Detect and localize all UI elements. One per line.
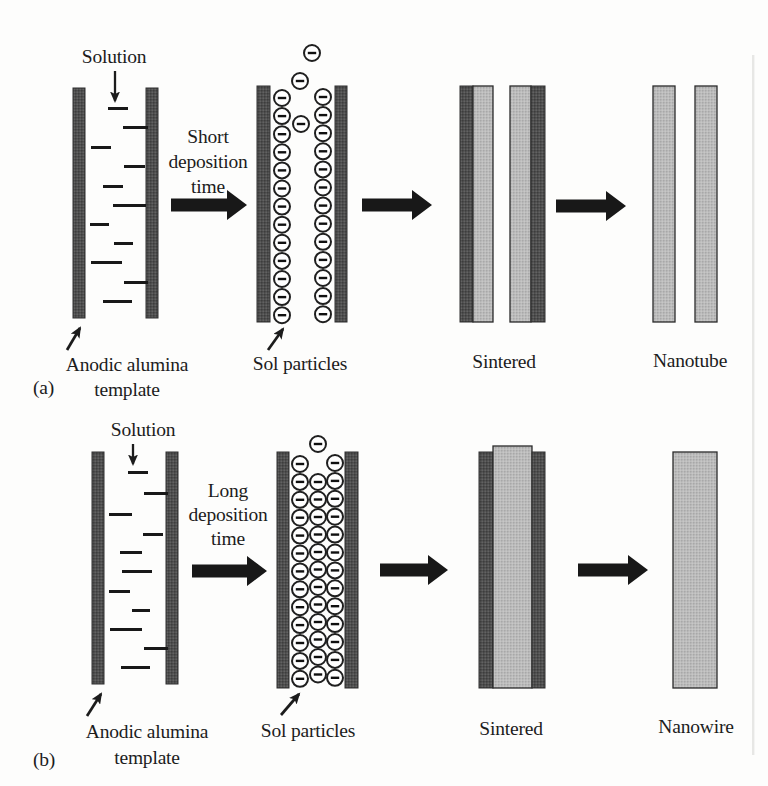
sol-particles-pointer-arrow-icon (281, 694, 299, 715)
sol-particle-icon (310, 436, 326, 452)
sol-particle-icon (315, 306, 331, 322)
sol-particle-icon (327, 616, 343, 632)
solution-species-dash (113, 204, 146, 207)
sol-particle-icon (304, 45, 320, 61)
sol-particle-icon (292, 510, 308, 526)
sol-particle-icon (310, 562, 326, 578)
sol-particle-icon (274, 108, 290, 124)
sol-particle-icon (274, 90, 290, 106)
solution-label: Solution (111, 419, 176, 440)
sol-particle-icon (292, 671, 308, 687)
solution-species-dash (124, 165, 145, 168)
sintered-structure (460, 86, 545, 322)
sol-particle-icon (274, 307, 290, 323)
solution-species-dash (123, 126, 148, 129)
sol-particle-icon (310, 614, 326, 630)
figure-sol-gel-template-synthesis: SolutionAnodic aluminatemplate(a)Shortde… (0, 0, 768, 786)
sol-particle-icon (274, 235, 290, 251)
sol-particle-icon (310, 492, 326, 508)
process-arrow-template-removal (578, 555, 648, 585)
sol-particle-icon (315, 89, 331, 105)
sol-particle-icon (315, 270, 331, 286)
sol-particle-icon (327, 527, 343, 543)
template-caption-line: Anodic alumina (86, 721, 209, 742)
solution-species-dash (108, 107, 128, 110)
sol-particle-icon (292, 528, 308, 544)
panel-index-label: (b) (33, 749, 55, 771)
sol-particle-icon (274, 144, 290, 160)
sol-particle-icon (327, 670, 343, 686)
sintered-deposit-bar (473, 86, 493, 322)
sol-particle-icon (292, 617, 308, 633)
process-arrow-sintering (362, 190, 432, 220)
sol-particle-icon (292, 73, 308, 89)
sol-particle-icon (310, 544, 326, 560)
product-structure (653, 86, 717, 322)
solution-species-dash (144, 492, 168, 495)
sol-particle-icon (327, 580, 343, 596)
sol-particle-icon (292, 456, 308, 472)
sintered-deposit-bar (510, 86, 531, 322)
sintered-wall-bar (460, 86, 473, 322)
template-caption-line: template (94, 379, 160, 400)
sol-particle-icon (274, 126, 290, 142)
sol-particle-icon (310, 579, 326, 595)
sintered-caption: Sintered (472, 351, 536, 372)
sol-particle-icon (292, 653, 308, 669)
product-bar (653, 86, 675, 322)
solution-species-dash (109, 590, 130, 593)
sol-particles-pointer-arrow-icon (268, 329, 283, 350)
sintered-structure (479, 446, 545, 688)
sol-particle-icon (274, 199, 290, 215)
sol-particles-caption: Sol particles (253, 353, 347, 374)
alumina-template-structure (87, 452, 178, 716)
sol-particle-icon (310, 474, 326, 490)
solution-species-dash (132, 609, 150, 612)
template-pointer-arrow-icon (87, 694, 101, 716)
sol-particle-icon (292, 474, 308, 490)
solution-species-dash (114, 242, 133, 245)
sol-particle-icon (310, 527, 326, 543)
sol-particle-structure (277, 436, 358, 715)
sol-particle-icon (310, 597, 326, 613)
sintered-wall-bar (531, 86, 545, 322)
sol-particle-icon (327, 652, 343, 668)
sol-particle-icon (292, 563, 308, 579)
product-caption: Nanowire (658, 716, 733, 737)
panel-b: SolutionAnodic aluminatemplate(b)Longdep… (33, 419, 734, 771)
sol-particle-icon (292, 635, 308, 651)
template-caption-line: Anodic alumina (66, 354, 189, 375)
solution-species-dash (91, 146, 111, 149)
deposition-step-label-line: deposition (188, 504, 268, 525)
sol-particle-icon (274, 271, 290, 287)
sol-structure-wall-bar (335, 86, 347, 322)
sol-particle-icon (327, 562, 343, 578)
solution-species-dash (121, 666, 150, 669)
template-wall-bar (92, 452, 104, 684)
sol-particle-icon (327, 473, 343, 489)
sol-particle-icon (292, 599, 308, 615)
sol-particle-structure (257, 45, 347, 350)
solution-species-dash (91, 261, 122, 264)
deposition-step-label-line: Long (208, 480, 249, 501)
product-bar (673, 452, 717, 688)
alumina-template-structure (67, 88, 158, 350)
sol-particle-icon (310, 649, 326, 665)
solution-species-dash (110, 628, 142, 631)
sol-particle-icon (315, 252, 331, 268)
sol-particle-icon (292, 581, 308, 597)
sol-particle-icon (315, 234, 331, 250)
product-caption: Nanotube (653, 350, 727, 371)
deposition-step-label-line: Short (187, 126, 229, 147)
sol-particle-icon (292, 546, 308, 562)
process-arrow-deposition (192, 556, 267, 586)
solution-label: Solution (82, 46, 147, 67)
solution-species-dash (128, 471, 148, 474)
sol-particle-icon (274, 289, 290, 305)
sol-particle-icon (327, 455, 343, 471)
solution-species-dash (109, 513, 132, 516)
sol-particle-icon (327, 634, 343, 650)
sol-structure-wall-bar (257, 86, 270, 322)
sintered-caption: Sintered (479, 718, 543, 739)
sol-particle-icon (327, 491, 343, 507)
